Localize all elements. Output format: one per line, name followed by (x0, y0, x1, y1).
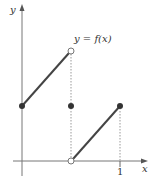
open-point-left-end (68, 48, 74, 54)
function-graph: y x 1 y = f(x) (0, 0, 154, 176)
closed-point-isolated (68, 103, 74, 109)
left-segment (22, 53, 69, 106)
closed-point-right-end (117, 103, 123, 109)
y-axis-label: y (9, 4, 16, 15)
open-point-right-start (68, 158, 74, 164)
tick-one-label: 1 (117, 166, 123, 176)
closed-point-left-start (19, 103, 25, 109)
x-axis-label: x (142, 163, 148, 174)
right-segment (73, 106, 120, 159)
function-label: y = f(x) (73, 33, 112, 44)
y-axis-arrow-icon (20, 4, 25, 11)
